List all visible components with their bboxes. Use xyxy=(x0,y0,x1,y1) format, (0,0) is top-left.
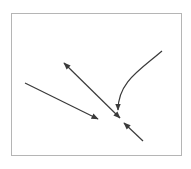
arrow-curved-icon xyxy=(118,51,162,110)
arrow-left-diagonal-icon xyxy=(25,83,98,119)
diagram-canvas xyxy=(0,0,191,169)
arrow-bottom-right-icon xyxy=(124,123,143,141)
arrow-double-headed-icon xyxy=(64,63,120,118)
diagram-frame xyxy=(12,14,182,156)
